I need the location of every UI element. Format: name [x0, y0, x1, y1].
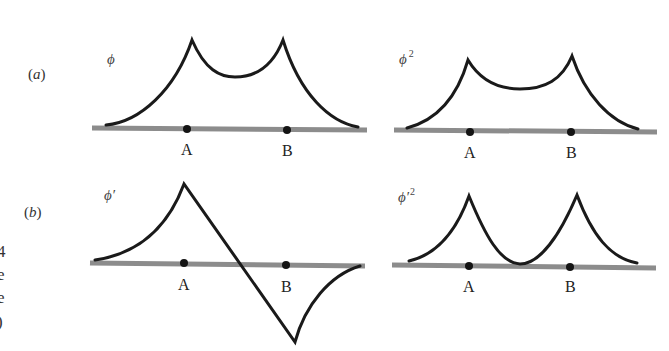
point-a-dot: [465, 262, 473, 270]
point-b-label: B: [565, 278, 576, 295]
row-label-a: (a): [28, 66, 46, 83]
point-a-label: A: [178, 276, 190, 293]
panel-phi-prime: ϕ′ A B: [90, 184, 365, 342]
x-axis: [394, 130, 657, 132]
margin-fragment: ): [0, 312, 3, 331]
point-b-label: B: [566, 144, 577, 161]
panel-phi-prime-squared: ϕ′2 A B: [392, 186, 656, 295]
function-label-phi-squared: ϕ2: [399, 48, 414, 67]
phi-curve: [106, 40, 358, 127]
point-b-dot: [567, 128, 575, 136]
panel-phi-squared: ϕ2 A B: [394, 48, 657, 161]
point-b-dot: [282, 261, 290, 269]
margin-fragment: 4: [0, 242, 6, 261]
point-a-label: A: [463, 278, 475, 295]
function-label-phi-prime-squared: ϕ′2: [398, 186, 415, 205]
x-axis: [90, 263, 365, 266]
function-label-phi: ϕ: [107, 51, 115, 67]
point-b-dot: [566, 263, 574, 271]
point-b-label: B: [281, 278, 292, 295]
row-label-b: (b): [24, 204, 42, 221]
margin-fragment: e: [0, 265, 5, 284]
function-label-phi-prime: ϕ′: [104, 187, 116, 203]
margin-fragment: e: [0, 288, 5, 307]
margin-fragments: 4 e e ): [0, 242, 6, 331]
point-a-label: A: [181, 141, 193, 158]
phi-prime-squared-curve: [409, 195, 637, 264]
figure-canvas: 4 e e ) (a) (b) ϕ A B ϕ2 A B ϕ′ A B ϕ′2: [0, 0, 669, 351]
point-a-dot: [466, 128, 474, 136]
point-b-label: B: [282, 142, 293, 159]
panel-phi: ϕ A B: [92, 40, 367, 159]
point-a-dot: [183, 125, 191, 133]
x-axis: [392, 265, 656, 268]
x-axis: [92, 128, 367, 130]
point-a-label: A: [464, 144, 476, 161]
point-a-dot: [180, 259, 188, 267]
point-b-dot: [283, 126, 291, 134]
phi-squared-curve: [407, 56, 638, 129]
